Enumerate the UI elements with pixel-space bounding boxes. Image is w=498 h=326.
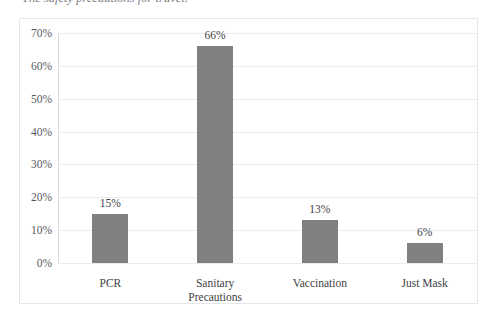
bar[interactable] [92, 214, 128, 263]
y-tick-label: 20% [31, 191, 52, 203]
bar[interactable] [197, 46, 233, 263]
bar-value-label: 15% [100, 197, 121, 209]
y-tick-label: 50% [31, 93, 52, 105]
y-tick-label: 60% [31, 60, 52, 72]
gridline-0 [58, 263, 477, 264]
x-tick-label: PCR [100, 277, 122, 291]
gridline-60 [58, 66, 477, 67]
gridline-50 [58, 99, 477, 100]
y-tick-label: 40% [31, 126, 52, 138]
bar-value-label: 66% [205, 29, 226, 41]
y-tick-label: 70% [31, 27, 52, 39]
bar[interactable] [407, 243, 443, 263]
caption-clip: The safety precautions for travel. [0, 0, 498, 9]
gridline-30 [58, 164, 477, 165]
gridline-70 [58, 33, 477, 34]
y-tick-label: 30% [31, 158, 52, 170]
chart-frame: 0%10%20%30%40%50%60%70% 15%66%13%6% PCRS… [19, 18, 478, 304]
y-tick-label: 0% [37, 257, 52, 269]
bar-value-label: 6% [417, 226, 432, 238]
x-tick-label: Sanitary Precautions [188, 277, 242, 304]
y-axis-line [58, 33, 59, 263]
gridline-40 [58, 132, 477, 133]
x-tick-label: Vaccination [293, 277, 347, 291]
y-tick-label: 10% [31, 224, 52, 236]
bar-chart-plot-area: 0%10%20%30%40%50%60%70% 15%66%13%6% PCRS… [58, 27, 477, 263]
figure-caption: The safety precautions for travel. [22, 0, 188, 6]
bar-value-label: 13% [309, 203, 330, 215]
x-tick-label: Just Mask [401, 277, 447, 291]
bar[interactable] [302, 220, 338, 263]
